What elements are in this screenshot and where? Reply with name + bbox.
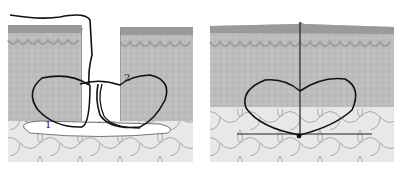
diagram-canvas: 1 2 [0,0,400,173]
label-exit-point: 2 [124,72,130,83]
suture-diagram: 1 2 [0,0,400,173]
panel-after [210,22,394,162]
skin-block-left [8,25,82,121]
panel-before: 1 2 [8,15,193,162]
suture-knot [297,134,302,139]
skin-block-right [120,27,193,121]
skin-closed [210,22,394,109]
label-entry-point: 1 [45,119,51,130]
